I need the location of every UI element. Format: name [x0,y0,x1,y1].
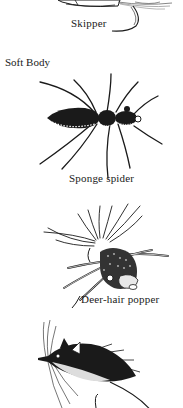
figure-caption-sponge-spider: Sponge spider [69,172,134,184]
deer-hair-popper-illustration [0,196,183,306]
mouse-fly-illustration [0,316,183,408]
section-heading: Soft Body [5,56,50,68]
figure-caption-deer-hair-popper: Deer-hair popper [81,293,159,305]
figure-caption-skipper: Skipper [71,17,107,29]
sponge-spider-illustration [0,68,183,180]
